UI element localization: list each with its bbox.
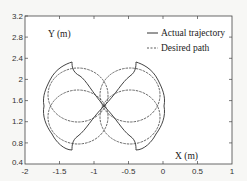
x-tick-label: 1 — [230, 167, 235, 176]
x-tick-label: 0.5 — [192, 167, 204, 176]
y-tick-label: 0.8 — [12, 139, 24, 148]
y-tick-label: 1.6 — [12, 96, 24, 105]
x-axis-label: X (m) — [175, 151, 198, 162]
x-tick-label: 0 — [161, 167, 166, 176]
x-tick-label: -1 — [90, 167, 98, 176]
y-tick-label: 2.4 — [12, 54, 24, 63]
y-tick-label: 1.2 — [12, 117, 24, 126]
y-tick-label: 0.4 — [12, 158, 24, 167]
legend-desired-label: Desired path — [161, 43, 210, 53]
x-tick-label: -2 — [21, 167, 29, 176]
y-tick-label: 3.2 — [12, 12, 24, 21]
x-tick-label: -1.5 — [53, 167, 67, 176]
y-tick-label: 2.8 — [12, 33, 24, 42]
trajectory-chart: 3.2 2.8 2.4 2 1.6 1.2 0.8 0.4 -2 -1.5 -1… — [0, 0, 247, 181]
y-tick-label: 2 — [19, 75, 24, 84]
y-axis-label: Y (m) — [48, 29, 71, 40]
x-tick-label: -0.5 — [122, 167, 136, 176]
legend-actual-label: Actual trajectory — [161, 28, 225, 38]
